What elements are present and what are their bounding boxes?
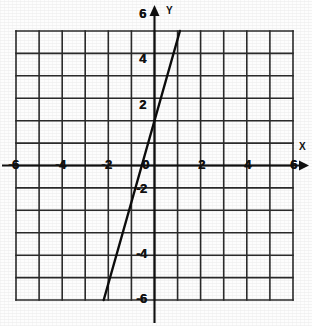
x-axis-label: X [299,142,306,152]
y-tick-label-pos-2: 2 [139,98,146,111]
y-tick-label-neg-4: -4 [136,247,147,260]
y-tick-label-neg-6: -6 [136,292,147,305]
y-tick-label-pos-6: 6 [139,7,146,20]
x-tick-label-neg-2: -2 [101,158,112,171]
x-tick-label-origin: 0 [142,158,149,171]
coordinate-plane [0,0,312,326]
x-tick-label-neg-4: -4 [55,158,66,171]
y-axis-label: Y [166,6,173,16]
y-tick-label-pos-4: 4 [139,52,146,65]
y-tick-label-neg-2: -2 [136,182,147,195]
graph-figure: -6 -4 -2 0 2 4 6 6 4 2 -2 -4 -6 Y X [0,0,312,326]
x-tick-label-pos-6: 6 [290,158,297,171]
x-tick-label-pos-4: 4 [244,158,251,171]
x-tick-label-neg-6: -6 [8,158,19,171]
x-tick-label-pos-2: 2 [198,158,205,171]
